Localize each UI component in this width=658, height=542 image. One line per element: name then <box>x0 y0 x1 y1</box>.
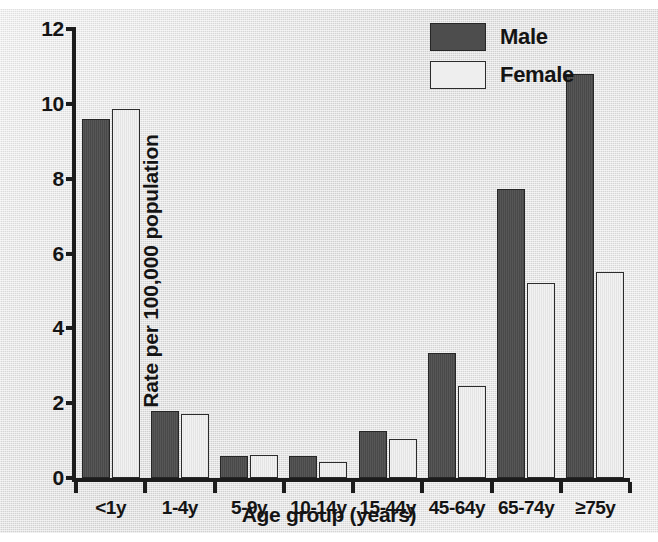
x-axis-tick <box>213 482 217 493</box>
bar-female <box>319 462 347 478</box>
x-axis-tick-label: 1-4y <box>162 497 198 519</box>
bar-female <box>596 272 624 478</box>
bar-male <box>497 189 525 478</box>
x-axis-tick-label: <1y <box>95 497 126 519</box>
y-axis-tick <box>66 401 76 405</box>
legend-swatch-female <box>430 61 486 89</box>
y-axis-tick-label: 8 <box>53 167 64 191</box>
x-axis-tick <box>490 482 494 493</box>
y-axis-tick-label: 12 <box>41 17 64 41</box>
y-axis-tick <box>66 177 76 181</box>
y-axis-tick <box>66 476 76 480</box>
bar-female <box>112 109 140 478</box>
bar-male <box>428 353 456 478</box>
plot-area: 024681012 <1y1-4y5-9y10-14y15-44y45-64y6… <box>76 29 630 478</box>
x-axis-tick <box>628 482 632 493</box>
bar-female <box>458 386 486 478</box>
legend-label-female: Female <box>500 62 574 88</box>
x-axis-tick-label: 5-9y <box>231 497 267 519</box>
chart-figure: Rate per 100,000 population Age group (y… <box>0 0 658 542</box>
legend-label-male: Male <box>500 24 548 50</box>
x-axis-tick-label: 65-74y <box>498 497 554 519</box>
bar-male <box>220 456 248 478</box>
x-axis-tick-label: 45-64y <box>429 497 485 519</box>
y-axis-tick-label: 10 <box>41 92 64 116</box>
y-axis-tick <box>66 27 76 31</box>
bar-male <box>359 431 387 478</box>
bar-male <box>289 456 317 478</box>
x-axis-tick <box>420 482 424 493</box>
y-axis-tick <box>66 102 76 106</box>
x-axis-tick <box>351 482 355 493</box>
x-axis-tick-label: 10-14y <box>290 497 346 519</box>
bar-male <box>151 411 179 478</box>
bar-male <box>82 119 110 478</box>
bar-female <box>181 414 209 478</box>
x-axis-tick <box>282 482 286 493</box>
chart-legend: Male Female <box>430 18 620 94</box>
bar-female <box>250 455 278 478</box>
y-axis-tick <box>66 252 76 256</box>
x-axis-tick <box>74 482 78 493</box>
x-axis-tick <box>559 482 563 493</box>
legend-item-female: Female <box>430 56 620 94</box>
legend-swatch-male <box>430 23 486 51</box>
y-axis-tick-label: 4 <box>53 316 64 340</box>
x-axis-tick-label: 15-44y <box>360 497 416 519</box>
legend-item-male: Male <box>430 18 620 56</box>
y-axis-tick-label: 6 <box>53 242 64 266</box>
y-axis-tick-label: 2 <box>53 391 64 415</box>
y-axis-line <box>72 29 76 482</box>
bar-male <box>566 74 594 478</box>
y-axis-tick <box>66 326 76 330</box>
bar-female <box>389 439 417 478</box>
y-axis-tick-label: 0 <box>53 466 64 490</box>
bar-female <box>527 283 555 478</box>
x-axis-tick <box>143 482 147 493</box>
x-axis-tick-label: ≥75y <box>575 497 615 519</box>
